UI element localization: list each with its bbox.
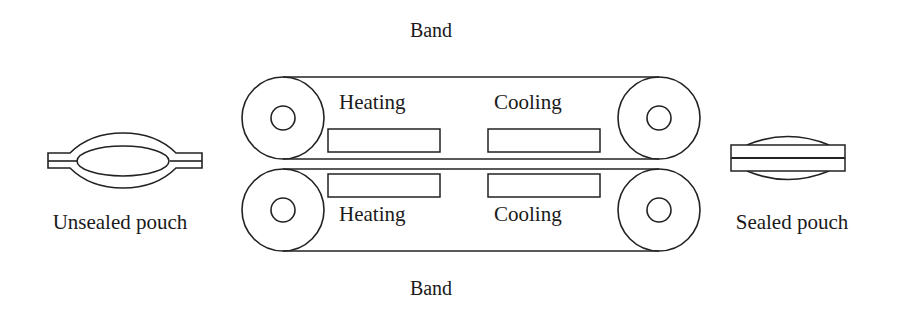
band-sealer-diagram: Band Heating Cooling Heating Cooling Ban… [0,0,902,317]
lower-right-pulley [618,169,700,251]
lower-left-pulley [242,169,324,251]
upper-heating-element [328,129,440,152]
sealed-pouch-label: Sealed pouch [736,210,849,234]
lower-right-pulley-hub [647,198,671,222]
upper-band: Heating Cooling [242,77,700,159]
upper-heating-label: Heating [339,90,406,114]
band-top-label: Band [410,19,452,41]
upper-cooling-label: Cooling [494,90,562,114]
upper-left-pulley [242,77,324,159]
upper-cooling-element [488,129,600,152]
lower-band: Heating Cooling [242,169,700,251]
upper-left-pulley-hub [271,106,295,130]
lower-cooling-element [488,174,600,197]
unsealed-pouch-label: Unsealed pouch [53,210,188,234]
sealed-pouch-icon [731,137,845,180]
lower-cooling-label: Cooling [494,202,562,226]
lower-left-pulley-hub [271,198,295,222]
lower-heating-element [328,174,440,197]
upper-right-pulley [618,77,700,159]
unsealed-pouch-icon [48,133,202,188]
upper-right-pulley-hub [647,106,671,130]
band-bottom-label: Band [410,277,452,299]
lower-heating-label: Heating [339,202,406,226]
